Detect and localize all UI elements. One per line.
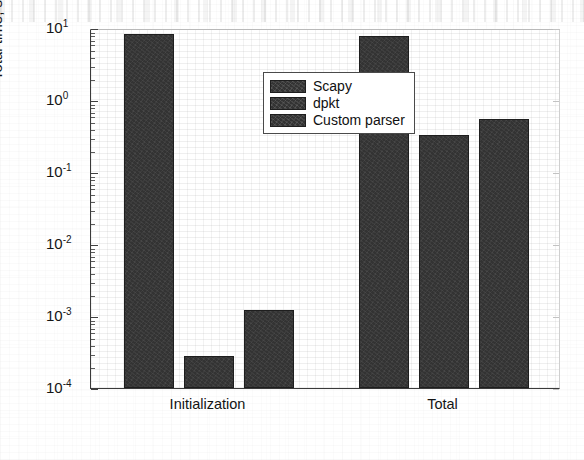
y-tick-minor — [91, 296, 95, 297]
y-tick-minor — [91, 130, 95, 131]
y-tick-minor — [91, 249, 95, 250]
chart-legend: Scapy dpkt Custom parser — [263, 72, 415, 134]
plot-area: Scapy dpkt Custom parser — [90, 29, 560, 389]
y-tick-minor — [91, 211, 95, 212]
legend-label-scapy: Scapy — [313, 79, 352, 93]
y-tick-minor — [91, 224, 95, 225]
y-tick-minor — [91, 355, 95, 356]
y-tick-major-right — [553, 389, 559, 390]
y-tick-minor — [91, 189, 95, 190]
y-tick-minor — [91, 105, 95, 106]
legend-item-dpkt: dpkt — [270, 95, 408, 111]
y-tick-minor — [91, 113, 95, 114]
y-tick-major — [91, 29, 98, 30]
y-tick-minor — [91, 67, 95, 68]
y-tick-minor — [91, 324, 95, 325]
y-tick-major-right — [553, 173, 559, 174]
y-tick-minor — [91, 274, 95, 275]
legend-item-scapy: Scapy — [270, 78, 408, 94]
legend-swatch-dpkt — [270, 97, 306, 110]
y-tick-minor — [91, 339, 95, 340]
y-tick-major-right — [553, 101, 559, 102]
y-tick-minor — [91, 123, 95, 124]
bar-chart-figure: Total time, s 10110010-110-210-310-4 Sca… — [0, 0, 584, 460]
y-tick-minor — [91, 177, 95, 178]
y-tick-minor — [91, 185, 95, 186]
y-tick-minor — [91, 267, 95, 268]
legend-label-dpkt: dpkt — [313, 96, 339, 110]
bar-custom-parser-total — [479, 119, 529, 388]
bar-custom-parser-initialization — [244, 310, 294, 388]
y-tick-minor — [91, 202, 95, 203]
bar-dpkt-total — [419, 135, 469, 388]
legend-item-custom-parser: Custom parser — [270, 112, 408, 128]
y-tick-minor — [91, 108, 95, 109]
x-tick-label-initialization: Initialization — [170, 396, 246, 412]
y-tick-minor — [91, 152, 95, 153]
bar-dpkt-initialization — [184, 356, 234, 388]
bar-scapy-initialization — [124, 34, 174, 388]
y-tick-minor — [91, 180, 95, 181]
y-tick-minor — [91, 45, 95, 46]
y-tick-minor — [91, 41, 95, 42]
y-tick-major-right — [553, 29, 559, 30]
y-tick-minor — [91, 139, 95, 140]
y-tick-minor — [91, 333, 95, 334]
y-tick-minor — [91, 346, 95, 347]
y-tick-minor — [91, 117, 95, 118]
y-tick-minor — [91, 58, 95, 59]
y-tick-minor — [91, 368, 95, 369]
y-tick-major — [91, 389, 98, 390]
y-tick-minor — [91, 36, 95, 37]
legend-swatch-custom-parser — [270, 114, 306, 127]
y-tick-minor — [91, 283, 95, 284]
y-axis-title: Total time, s — [0, 0, 5, 150]
y-tick-major — [91, 317, 98, 318]
y-tick-minor — [91, 80, 95, 81]
x-tick-label-total: Total — [427, 396, 458, 412]
y-tick-minor — [91, 257, 95, 258]
y-tick-minor — [91, 51, 95, 52]
y-tick-major-right — [553, 245, 559, 246]
y-tick-major — [91, 173, 98, 174]
y-tick-minor — [91, 321, 95, 322]
legend-swatch-scapy — [270, 80, 306, 93]
y-tick-minor — [91, 329, 95, 330]
y-tick-minor — [91, 195, 95, 196]
y-tick-minor — [91, 252, 95, 253]
y-tick-major — [91, 245, 98, 246]
legend-label-custom-parser: Custom parser — [313, 113, 405, 127]
y-tick-minor — [91, 33, 95, 34]
y-tick-major — [91, 101, 98, 102]
y-tick-major-right — [553, 317, 559, 318]
y-tick-minor — [91, 261, 95, 262]
